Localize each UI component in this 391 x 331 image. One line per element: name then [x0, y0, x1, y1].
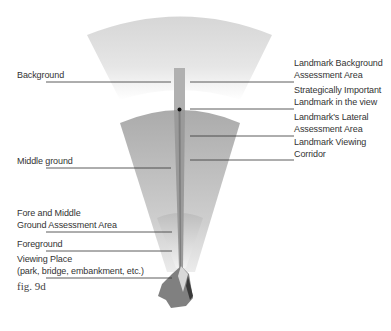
- label-viewing-corridor: Landmark Viewing Corridor: [294, 137, 366, 160]
- figure-caption: fig. 9d: [17, 280, 46, 292]
- label-background: Background: [17, 70, 64, 82]
- landmark-dot: [178, 108, 182, 112]
- label-foreground: Foreground: [17, 239, 63, 251]
- label-lateral-assessment: Landmark's Lateral Assessment Area: [294, 112, 368, 135]
- label-landmark-background-assessment: Landmark Background Assessment Area: [294, 58, 383, 81]
- label-fore-middle-assessment: Fore and Middle Ground Assessment Area: [17, 208, 117, 231]
- label-middle-ground: Middle ground: [17, 156, 73, 168]
- label-strategic-landmark: Strategically Important Landmark in the …: [294, 85, 381, 108]
- label-viewing-place: Viewing Place (park, bridge, embankment,…: [17, 254, 144, 277]
- landmark-background-assessment-bar: [174, 68, 185, 112]
